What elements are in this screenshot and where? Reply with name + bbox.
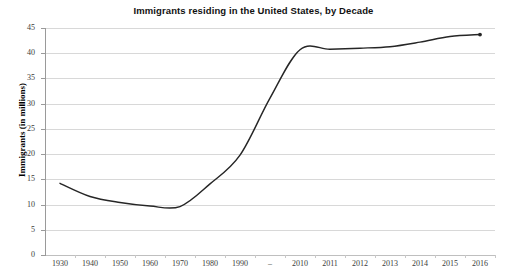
gridline-5 [45,230,495,231]
y-tick-mark-0 [41,255,45,256]
x-tick-mark-13 [465,255,466,258]
y-tick-mark-25 [41,129,45,130]
plot-area [45,28,495,255]
x-tick-mark-5 [225,255,226,258]
y-tick-label-5: 5 [5,225,35,234]
y-tick-label-10: 10 [5,200,35,209]
y-tick-mark-20 [41,154,45,155]
gridline-45 [45,28,495,29]
gridline-10 [45,205,495,206]
x-tick-mark-3 [165,255,166,258]
y-tick-label-15: 15 [5,174,35,183]
x-tick-mark-2 [135,255,136,258]
y-tick-mark-40 [41,53,45,54]
x-tick-mark-4 [195,255,196,258]
gridline-25 [45,129,495,130]
x-tick-mark-8 [315,255,316,258]
x-tick-mark-10 [375,255,376,258]
x-tick-label-14: 2016 [460,259,500,268]
y-tick-label-45: 45 [5,23,35,32]
y-tick-mark-5 [41,230,45,231]
y-tick-label-40: 40 [5,48,35,57]
y-tick-label-20: 20 [5,149,35,158]
line-chart: Immigrants residing in the United States… [0,0,507,279]
y-axis-line [45,28,46,256]
gridline-0 [45,255,495,256]
gridline-40 [45,53,495,54]
y-tick-mark-35 [41,78,45,79]
x-tick-mark-1 [105,255,106,258]
x-tick-mark-12 [435,255,436,258]
x-tick-mark-11 [405,255,406,258]
y-tick-label-0: 0 [5,250,35,259]
y-tick-label-30: 30 [5,99,35,108]
gridline-30 [45,104,495,105]
y-tick-mark-45 [41,28,45,29]
chart-title: Immigrants residing in the United States… [0,5,507,16]
y-tick-mark-10 [41,205,45,206]
y-tick-mark-30 [41,104,45,105]
y-tick-label-35: 35 [5,73,35,82]
x-tick-mark-7 [285,255,286,258]
x-tick-mark-14 [495,255,496,258]
gridline-35 [45,78,495,79]
gridline-20 [45,154,495,155]
x-tick-mark-9 [345,255,346,258]
x-tick-mark-6 [255,255,256,258]
y-tick-mark-15 [41,179,45,180]
x-tick-mark-0 [75,255,76,258]
gridline-15 [45,179,495,180]
y-tick-label-25: 25 [5,124,35,133]
